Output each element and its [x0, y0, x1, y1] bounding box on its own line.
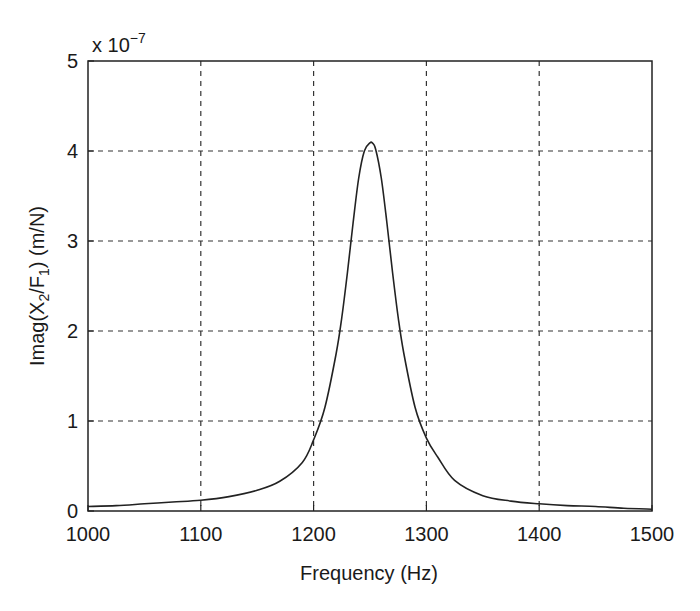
x-tick-label: 1100	[179, 523, 222, 545]
x-tick-label: 1500	[630, 523, 675, 545]
x-tick-label: 1000	[66, 523, 111, 545]
x-tick-label: 1300	[404, 523, 449, 545]
y-tick-label: 3	[67, 230, 78, 252]
x-axis-label: Frequency (Hz)	[300, 562, 438, 584]
x-tick-label: 1400	[517, 523, 562, 545]
y-axis-ticks: 012345	[67, 50, 94, 522]
y-tick-label: 2	[67, 320, 78, 342]
y-tick-label: 1	[67, 410, 78, 432]
x-tick-label: 1200	[291, 523, 336, 545]
frf-imaginary-chart: 100011001200130014001500 012345 x 10−7 F…	[0, 0, 700, 611]
data-series-line	[88, 142, 652, 509]
y-tick-label: 0	[67, 500, 78, 522]
y-tick-label: 5	[67, 50, 78, 72]
y-axis-label: Imag(X2/F1) (m/N)	[26, 206, 52, 366]
plot-frame	[88, 61, 652, 511]
y-scale-multiplier: x 10−7	[92, 30, 146, 56]
grid-lines	[88, 61, 652, 511]
y-tick-label: 4	[67, 140, 78, 162]
